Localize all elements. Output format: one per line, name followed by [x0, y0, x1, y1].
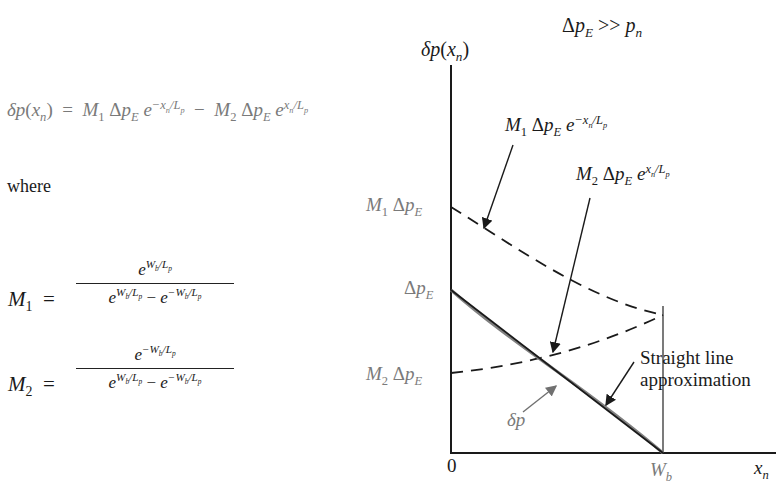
m2-arrow — [553, 198, 590, 352]
m1-curve — [451, 207, 663, 315]
straight-line-label: Straight line — [640, 347, 733, 369]
m1-curve-label: M1 ΔpE e−xn/Lp — [505, 114, 607, 136]
delta-p-arrow — [523, 386, 556, 412]
condition-label: ΔpE >> pn — [562, 14, 642, 37]
m2-curve-label: M2 ΔpE exn/Lp — [576, 163, 670, 185]
x-tick-zero: 0 — [447, 455, 457, 477]
x-tick-wb: Wb — [650, 459, 672, 481]
x-axis-label: xn — [754, 457, 769, 479]
approximation-label: approximation — [640, 369, 751, 391]
y-axis-label: δp(xn) — [421, 38, 469, 61]
m2-curve — [451, 315, 663, 373]
m1-arrow — [484, 145, 513, 228]
straight-arrow — [606, 362, 634, 405]
straight-line — [451, 290, 663, 453]
y-level-m1: M1 ΔpE — [366, 194, 422, 216]
y-level-m2: M2 ΔpE — [366, 363, 422, 385]
y-level-dpe: ΔpE — [404, 277, 433, 299]
delta-p-label: δp — [507, 409, 525, 431]
